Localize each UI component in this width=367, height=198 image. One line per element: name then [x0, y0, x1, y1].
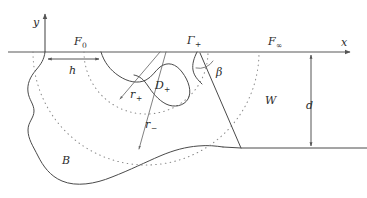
r-plus-label: r +: [130, 88, 142, 103]
x-axis-label: x: [341, 36, 348, 49]
figure-container: y x F 0 Γ + F ∞ h d β W B D + r + r −: [0, 0, 367, 198]
svg-text:∞: ∞: [276, 41, 282, 50]
svg-text:Γ: Γ: [186, 34, 195, 47]
h-label: h: [69, 64, 76, 77]
svg-text:0: 0: [82, 41, 87, 50]
svg-text:+: +: [195, 40, 201, 49]
gamma-plus-label: Γ +: [186, 34, 201, 49]
svg-text:+: +: [164, 85, 170, 94]
geometry-diagram: y x F 0 Γ + F ∞ h d β W B D + r + r −: [0, 0, 367, 198]
beta-label: β: [215, 66, 222, 79]
r-minus-ray: [139, 52, 166, 149]
y-axis-label: y: [32, 16, 40, 29]
lower-boundary-right: [223, 147, 367, 148]
b-label: B: [61, 154, 70, 167]
svg-text:F: F: [73, 35, 82, 48]
f-infinity-label: F ∞: [267, 35, 282, 50]
d-plus-boundary: [101, 52, 190, 106]
r-minus-label: r −: [145, 118, 157, 133]
svg-text:+: +: [136, 94, 142, 103]
d-label: d: [306, 99, 313, 112]
beta-angle-arc: [196, 61, 213, 68]
svg-text:D: D: [154, 79, 164, 92]
svg-text:−: −: [151, 124, 157, 133]
w-label: W: [265, 94, 278, 107]
d-plus-label: D +: [154, 79, 170, 94]
svg-text:F: F: [267, 35, 276, 48]
r-plus-ray: [120, 52, 160, 99]
f-zero-label: F 0: [73, 35, 87, 50]
